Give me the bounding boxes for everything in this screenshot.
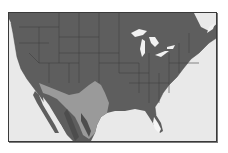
range-map xyxy=(8,12,217,142)
map-svg xyxy=(9,13,217,142)
